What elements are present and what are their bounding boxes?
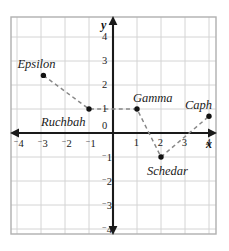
y-tick-neg4: −4 [102,224,112,235]
x-tick-neg4: −4 [14,138,24,149]
point-label-gamma: Gamma [133,92,173,105]
point-label-ruchbah: Ruchbah [41,116,85,129]
data-point-ruchbah [86,106,91,111]
data-point-gamma [134,106,139,111]
x-tick-pos3: 3 [182,138,187,149]
y-axis-name: y [101,19,106,31]
point-label-epsilon: Epsilon [17,58,55,71]
x-tick-pos2: 2 [158,138,163,149]
y-tick-neg1: −1 [102,152,112,163]
origin-label: 0 [102,121,107,132]
plot-canvas [0,0,229,251]
data-point-epsilon [41,73,46,78]
x-tick-neg2: −2 [62,138,72,149]
y-tick-pos2: 2 [102,80,107,91]
y-tick-pos3: 3 [102,56,107,67]
point-label-caph: Caph [185,99,212,112]
y-tick-neg2: −2 [102,176,112,187]
data-point-schedar [158,154,163,159]
x-tick-pos1: 1 [134,138,139,149]
point-label-schedar: Schedar [147,165,188,178]
y-tick-pos4: 4 [102,32,107,43]
x-tick-neg3: −3 [38,138,48,149]
x-axis-name: x [206,138,212,150]
data-point-caph [206,114,211,119]
x-tick-neg1: −1 [86,138,96,149]
y-tick-neg3: −3 [102,200,112,211]
y-tick-pos1: 1 [102,104,107,115]
coordinate-plane-figure: EpsilonRuchbahGammaSchedarCaph−4−3−2−112… [0,0,229,251]
